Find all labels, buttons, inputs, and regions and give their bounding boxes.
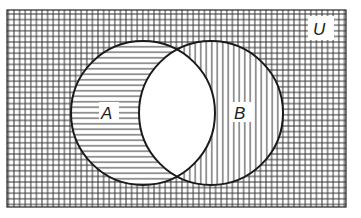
universe-label: U — [313, 20, 326, 39]
set-b-label: B — [234, 104, 245, 123]
set-a-label: A — [100, 104, 112, 123]
venn-diagram: A B U — [0, 0, 361, 218]
